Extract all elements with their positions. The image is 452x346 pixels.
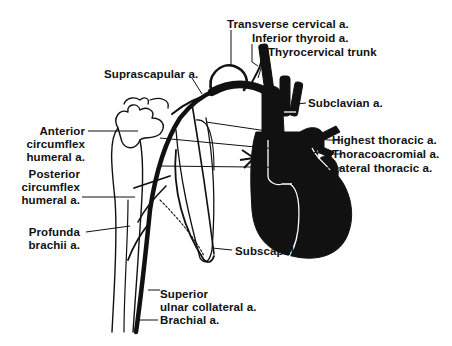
label-thoracoacromial: Thoracoacromial a. (332, 148, 439, 161)
label-thyrocervical-trunk: Thyrocervical trunk (268, 46, 377, 59)
anatomy-diagram: Transverse cervical a. Inferior thyroid … (0, 0, 452, 346)
label-posterior-circumflex: Posterior circumflex humeral a. (0, 168, 80, 207)
subclavian-artery-arch (212, 85, 268, 93)
label-transverse-cervical: Transverse cervical a. (227, 18, 349, 31)
label-suprascapular: Suprascapular a. (104, 68, 198, 81)
leader-profunda (86, 226, 130, 232)
scapula-outline (116, 105, 163, 148)
label-highest-thoracic: Highest thoracic a. (332, 134, 437, 147)
label-lateral-thoracic: Lateral thoracic a. (332, 162, 432, 175)
label-superior-ulnar-collateral: Superior ulnar collateral a. (160, 288, 257, 314)
label-profunda-brachii: Profunda brachii a. (0, 226, 80, 252)
leader-inferior-thyroid (252, 44, 258, 66)
label-subscapular: Subscapular a. (235, 245, 318, 258)
label-inferior-thyroid: Inferior thyroid a. (252, 32, 348, 45)
label-anterior-circumflex: Anterior circumflex humeral a. (0, 125, 85, 164)
humerus-outline (112, 128, 118, 332)
leader-subscapular (212, 248, 232, 250)
label-brachial: Brachial a. (160, 314, 219, 327)
label-subclavian: Subclavian a. (308, 97, 383, 110)
